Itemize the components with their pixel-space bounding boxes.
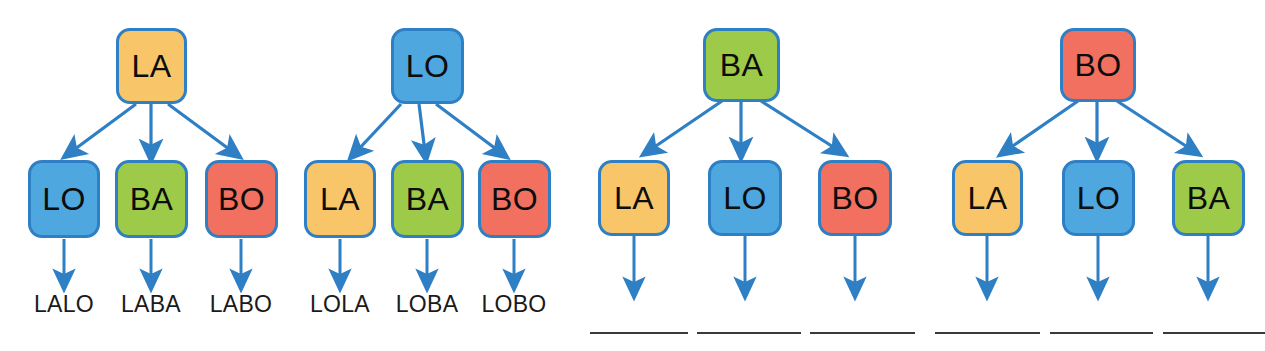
tree-bo-answer-line-2[interactable] — [1050, 332, 1153, 334]
node-label: BA — [130, 183, 174, 215]
tree-lo-result-2: LOBA — [377, 291, 477, 318]
tree-lo-result-1: LOLA — [290, 291, 390, 318]
tree-bo-answer-line-1[interactable] — [935, 332, 1040, 334]
tree-la-child-node-3[interactable]: BO — [205, 160, 278, 238]
tree-bo-child-node-2[interactable]: LO — [1062, 160, 1135, 236]
tree-lo-child-node-1[interactable]: LA — [304, 160, 376, 238]
node-label: BA — [406, 183, 450, 215]
tree-ba-root-node[interactable]: BA — [703, 28, 780, 102]
worksheet-canvas: LA LO BA BO LALO LABA LABO LO LA BA BO L… — [0, 0, 1265, 351]
node-label: LO — [1077, 182, 1121, 214]
tree-ba-answer-line-2[interactable] — [697, 332, 801, 334]
tree-bo-root-node[interactable]: BO — [1060, 28, 1136, 102]
node-label: LA — [967, 182, 1007, 214]
node-label: BO — [491, 183, 538, 215]
tree-la-child-node-1[interactable]: LO — [28, 160, 100, 238]
node-label: BO — [831, 182, 878, 214]
node-label: LO — [42, 183, 86, 215]
tree-lo-result-3: LOBO — [464, 291, 564, 318]
tree-ba-answer-line-1[interactable] — [590, 332, 688, 334]
tree-la-result-1: LALO — [14, 291, 114, 318]
node-label: LA — [614, 182, 654, 214]
node-label: LO — [723, 182, 767, 214]
tree-lo-child-node-3[interactable]: BO — [478, 160, 551, 238]
tree-bo-answer-line-3[interactable] — [1163, 332, 1265, 334]
tree-ba-answer-line-3[interactable] — [810, 332, 915, 334]
tree-ba-child-node-3[interactable]: BO — [818, 160, 892, 236]
tree-la-result-2: LABA — [101, 291, 201, 318]
node-label: BO — [218, 183, 265, 215]
node-label: BA — [720, 49, 764, 81]
node-label: BO — [1074, 49, 1121, 81]
tree-bo-child-node-1[interactable]: LA — [952, 160, 1023, 236]
node-label: BA — [1187, 182, 1231, 214]
tree-bo-child-node-3[interactable]: BA — [1172, 160, 1245, 236]
tree-lo-child-node-2[interactable]: BA — [391, 160, 464, 238]
tree-la-result-3: LABO — [191, 291, 291, 318]
node-label: LA — [320, 183, 360, 215]
tree-ba-child-node-2[interactable]: LO — [708, 160, 782, 236]
tree-lo-root-node[interactable]: LO — [391, 28, 464, 104]
tree-la-child-node-2[interactable]: BA — [115, 160, 188, 238]
node-label: LA — [131, 50, 171, 82]
tree-la-root-node[interactable]: LA — [116, 28, 187, 104]
node-label: LO — [406, 50, 450, 82]
tree-ba-child-node-1[interactable]: LA — [598, 160, 670, 236]
